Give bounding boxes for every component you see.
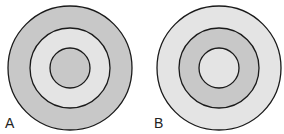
figure-a-label: A bbox=[5, 116, 14, 130]
figure-b-label: B bbox=[154, 116, 163, 130]
figure-b-inner-ring bbox=[199, 48, 239, 88]
figure-a bbox=[8, 6, 132, 130]
figure-b bbox=[157, 6, 281, 130]
figure-a-inner-ring bbox=[50, 48, 90, 88]
concentric-circles-diagram bbox=[0, 0, 284, 134]
